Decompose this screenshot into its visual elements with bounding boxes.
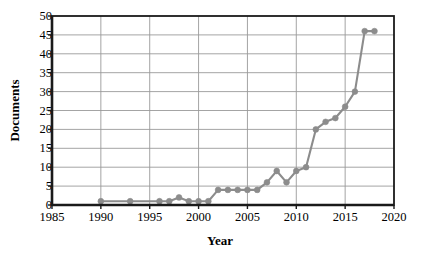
data-point xyxy=(127,198,133,204)
data-point xyxy=(352,89,358,95)
data-point xyxy=(176,195,182,201)
data-point xyxy=(284,179,290,185)
data-point xyxy=(245,187,251,193)
data-point xyxy=(332,115,338,121)
data-point xyxy=(235,187,241,193)
data-point xyxy=(303,164,309,170)
data-point xyxy=(157,198,163,204)
data-point xyxy=(98,198,104,204)
series-markers xyxy=(98,28,377,204)
data-point xyxy=(264,179,270,185)
data-point xyxy=(274,168,280,174)
data-point xyxy=(225,187,231,193)
data-point xyxy=(196,198,202,204)
data-point xyxy=(323,119,329,125)
data-point xyxy=(342,104,348,110)
data-point xyxy=(293,168,299,174)
data-point xyxy=(186,198,192,204)
data-point xyxy=(205,198,211,204)
data-point xyxy=(313,126,319,132)
data-point xyxy=(215,187,221,193)
chart-container: Documents 50454035302520151050 198519901… xyxy=(0,0,424,257)
data-point xyxy=(362,28,368,34)
axis-frame xyxy=(48,16,394,209)
plot-area xyxy=(0,0,424,257)
data-point xyxy=(372,28,378,34)
data-point xyxy=(166,198,172,204)
data-point xyxy=(254,187,260,193)
